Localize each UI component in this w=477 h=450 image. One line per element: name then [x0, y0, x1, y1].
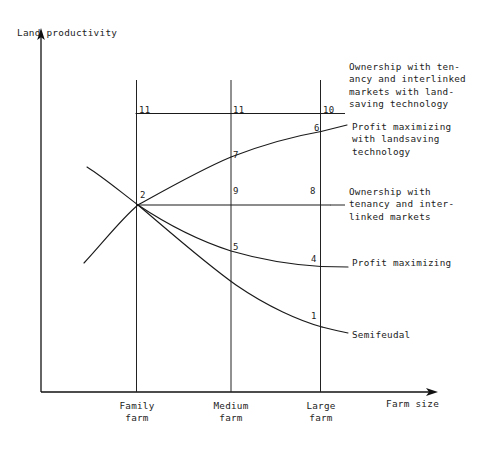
node-label-11: 11	[139, 104, 150, 116]
node-label-10: 10	[323, 104, 334, 116]
x-tick-family-farm-line2: farm	[125, 412, 148, 423]
curve-label-semifeudal: Semifeudal	[352, 329, 410, 341]
node-label-1: 1	[311, 310, 317, 322]
branch-upper-left	[87, 167, 138, 205]
curve-label-ownership-tenancy: Ownership with tenancy and inter- linked…	[349, 186, 454, 223]
figure-canvas: Land productivity Farm size Familyfarm M…	[0, 0, 477, 450]
node-label-5: 5	[233, 241, 239, 253]
x-axis	[41, 388, 438, 396]
y-axis-title: Land productivity	[17, 27, 117, 39]
x-tick-medium-farm: Mediumfarm	[202, 400, 260, 424]
x-tick-medium-farm-line2: farm	[219, 412, 242, 423]
branch-lower-left	[84, 205, 138, 263]
x-tick-medium-farm-line1: Medium	[213, 400, 248, 411]
node-label-4: 4	[311, 253, 317, 265]
y-axis	[37, 28, 45, 392]
x-axis-title: Farm size	[386, 398, 439, 410]
node-label-2: 2	[140, 189, 146, 201]
node-label-11b: 11	[233, 104, 244, 116]
x-tick-family-farm: Familyfarm	[108, 400, 166, 424]
x-tick-large-farm-line1: Large	[306, 400, 335, 411]
curve-label-ownership-tenancy-landsaving: Ownership with ten- ancy and interlinked…	[349, 61, 466, 111]
x-tick-large-farm: Largefarm	[292, 400, 350, 424]
curve-label-profit-max-landsaving: Profit maximizing with landsaving techno…	[352, 121, 451, 158]
node-label-9: 9	[233, 185, 239, 197]
node-label-6: 6	[314, 122, 320, 134]
curve-label-profit-maximizing: Profit maximizing	[352, 257, 451, 269]
node-label-7: 7	[233, 149, 239, 161]
x-tick-large-farm-line2: farm	[309, 412, 332, 423]
node-label-8: 8	[310, 185, 316, 197]
x-tick-family-farm-line1: Family	[119, 400, 154, 411]
